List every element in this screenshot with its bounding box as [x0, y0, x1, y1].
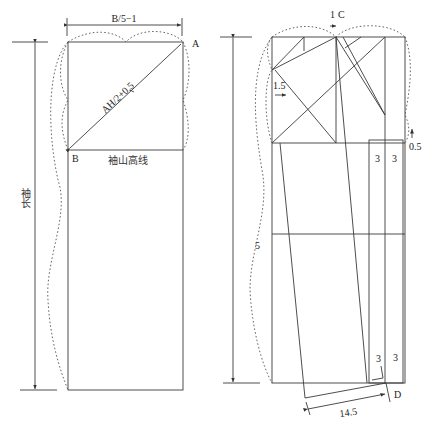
offset-0-5-label: 0.5	[409, 141, 422, 152]
offset-c-value: 1	[330, 9, 335, 20]
right-sleeve-draft: 5 1 C 1.5 0.5 3 3 3 3 14.5 D	[220, 9, 422, 419]
svg-text:3: 3	[375, 153, 380, 164]
offset-1-5-label: 1.5	[273, 80, 286, 91]
cap-height-line-label: 袖山高线	[108, 154, 148, 166]
diagonal-label: AH/2+0.5	[99, 80, 136, 116]
width-dimension-label: B/5−1	[111, 13, 136, 24]
svg-text:3: 3	[392, 153, 397, 164]
sleeve-pattern-diagram: B/5−1 AH/2+0.5 A B 袖山高线 袖长 5	[0, 0, 434, 434]
svg-text:3: 3	[376, 353, 381, 364]
point-b-label: B	[72, 153, 79, 164]
sleeve-length-label: 袖长	[20, 187, 31, 208]
cuff-width-label: 14.5	[339, 406, 358, 419]
point-c-label: C	[338, 9, 345, 20]
left-sleeve-draft: B/5−1 AH/2+0.5 A B 袖山高线 袖长	[12, 13, 200, 390]
cuff-strip	[369, 140, 403, 383]
point-a-label: A	[192, 38, 200, 49]
svg-text:3: 3	[393, 352, 398, 363]
point-d-label: D	[394, 389, 401, 400]
